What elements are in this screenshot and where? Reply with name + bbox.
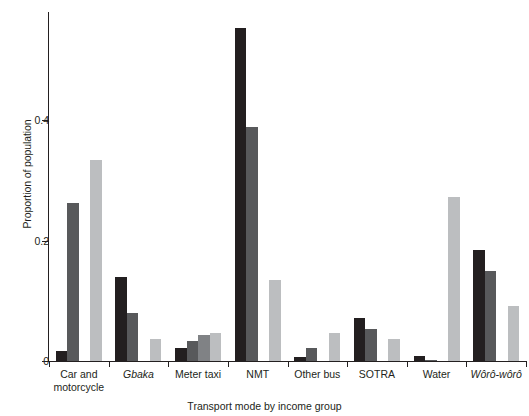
plot-area xyxy=(0,0,529,416)
bar xyxy=(115,277,127,361)
bar xyxy=(425,360,437,361)
bar-group xyxy=(294,11,340,361)
bar-chart-figure: Proportion of population 00.20.4 Car and… xyxy=(0,0,529,416)
bar xyxy=(90,160,102,361)
bar xyxy=(388,339,400,361)
bar-group xyxy=(354,11,400,361)
bar xyxy=(198,335,210,362)
bar xyxy=(210,333,222,361)
bar xyxy=(306,348,318,361)
bar xyxy=(175,348,187,361)
bar xyxy=(294,357,306,361)
bar xyxy=(187,341,199,361)
bar xyxy=(329,333,341,361)
bar xyxy=(235,28,247,361)
bar xyxy=(448,197,460,361)
bar xyxy=(473,250,485,361)
bar-group xyxy=(56,11,102,361)
x-axis-category-label-line: motorcycle xyxy=(41,381,117,394)
bar xyxy=(246,127,258,361)
bar xyxy=(269,280,281,361)
x-axis-title: Transport mode by income group xyxy=(0,400,529,412)
bar-group xyxy=(115,11,161,361)
x-axis-category-label: Wôrô-wôrô xyxy=(458,368,529,381)
bar xyxy=(354,318,366,361)
bar xyxy=(414,356,426,361)
bar-group xyxy=(414,11,460,361)
bar-group xyxy=(473,11,519,361)
bar xyxy=(127,313,139,361)
x-axis-category-label-line: Wôrô-wôrô xyxy=(458,368,529,381)
bar-group xyxy=(235,11,281,361)
bar xyxy=(56,351,68,361)
bar xyxy=(485,271,497,361)
bar xyxy=(150,339,162,361)
bar xyxy=(67,203,79,361)
bar-group xyxy=(175,11,221,361)
bar xyxy=(508,306,520,361)
bar xyxy=(365,329,377,361)
